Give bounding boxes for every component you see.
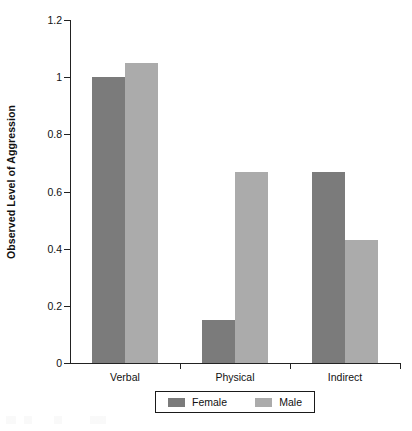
x-axis-tick — [290, 363, 291, 369]
chart-legend: FemaleMale — [155, 391, 315, 413]
bar-female-indirect — [312, 172, 345, 363]
x-axis-tick-label: Indirect — [328, 371, 362, 383]
legend-swatch-female — [168, 398, 185, 407]
bar-male-indirect — [345, 240, 378, 363]
bar-chart-figure: Observed Level of Aggression 00.20.40.60… — [0, 0, 412, 431]
y-axis-tick — [64, 249, 70, 250]
bar-female-physical — [202, 320, 235, 363]
y-axis-tick — [64, 77, 70, 78]
y-axis-tick — [64, 134, 70, 135]
y-axis-tick — [64, 306, 70, 307]
plot-area — [70, 20, 400, 363]
y-axis-tick-label: 0 — [6, 357, 62, 369]
y-axis-tick-label: 1.2 — [6, 14, 62, 26]
x-axis-line — [70, 363, 401, 364]
y-axis-tick-label: 0.8 — [6, 128, 62, 140]
bar-female-verbal — [92, 77, 125, 363]
y-axis-tick-labels: 00.20.40.60.811.2 — [0, 0, 62, 431]
y-axis-tick — [64, 363, 70, 364]
y-axis-tick-label: 0.6 — [6, 186, 62, 198]
legend-entry-female: Female — [168, 396, 227, 408]
x-axis-tick-label: Verbal — [110, 371, 140, 383]
bar-male-verbal — [125, 63, 158, 363]
y-axis-tick — [64, 192, 70, 193]
x-axis-tick — [180, 363, 181, 369]
legend-label-male: Male — [279, 396, 302, 408]
legend-swatch-male — [255, 398, 272, 407]
y-axis-tick — [64, 20, 70, 21]
x-axis-tick — [400, 363, 401, 369]
y-axis-tick-label: 0.4 — [6, 243, 62, 255]
y-axis-tick-label: 1 — [6, 71, 62, 83]
legend-label-female: Female — [192, 396, 227, 408]
scan-artifact — [6, 416, 156, 424]
x-axis-tick-label: Physical — [215, 371, 254, 383]
legend-entry-male: Male — [255, 396, 302, 408]
y-axis-tick-label: 0.2 — [6, 300, 62, 312]
bar-male-physical — [235, 172, 268, 363]
